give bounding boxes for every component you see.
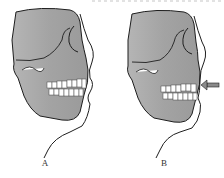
lower-teeth-b — [163, 93, 197, 100]
skull-profile-a — [0, 0, 112, 178]
arrow-icon — [201, 80, 219, 90]
panel-a: A — [0, 0, 112, 178]
panel-label-a: A — [35, 158, 55, 168]
skull-profile-b — [112, 0, 224, 178]
panel-label-b: B — [154, 158, 174, 168]
lower-teeth-a — [49, 89, 83, 96]
panel-b: B — [112, 0, 224, 178]
